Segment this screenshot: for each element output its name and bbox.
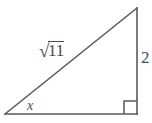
triangle-drawing [0, 0, 152, 123]
hypotenuse-length-label: √11 [39, 41, 64, 60]
angle-x-label: x [27, 99, 33, 113]
right-angle-marker-icon [124, 101, 137, 114]
hypotenuse-line [5, 8, 137, 114]
vertical-leg-length-label: 2 [141, 49, 150, 66]
right-triangle-figure: √11 2 x [0, 0, 152, 123]
hypotenuse-radicand-label: 11 [48, 41, 64, 59]
